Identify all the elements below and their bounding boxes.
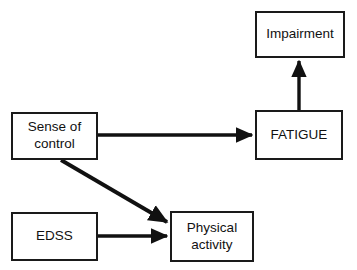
node-fatigue: FATIGUE xyxy=(255,110,343,160)
node-impairment: Impairment xyxy=(255,11,345,58)
node-edss: EDSS xyxy=(11,212,98,261)
node-fatigue-label: FATIGUE xyxy=(268,127,331,144)
node-physical-activity-label: Physical activity xyxy=(184,220,240,254)
node-physical-activity: Physical activity xyxy=(170,211,254,262)
node-edss-label: EDSS xyxy=(33,228,76,245)
diagram-canvas: Impairment FATIGUE Sense of control EDSS… xyxy=(0,0,357,270)
node-sense-of-control: Sense of control xyxy=(11,112,98,160)
node-impairment-label: Impairment xyxy=(263,26,337,43)
node-sense-of-control-label: Sense of control xyxy=(25,119,84,153)
